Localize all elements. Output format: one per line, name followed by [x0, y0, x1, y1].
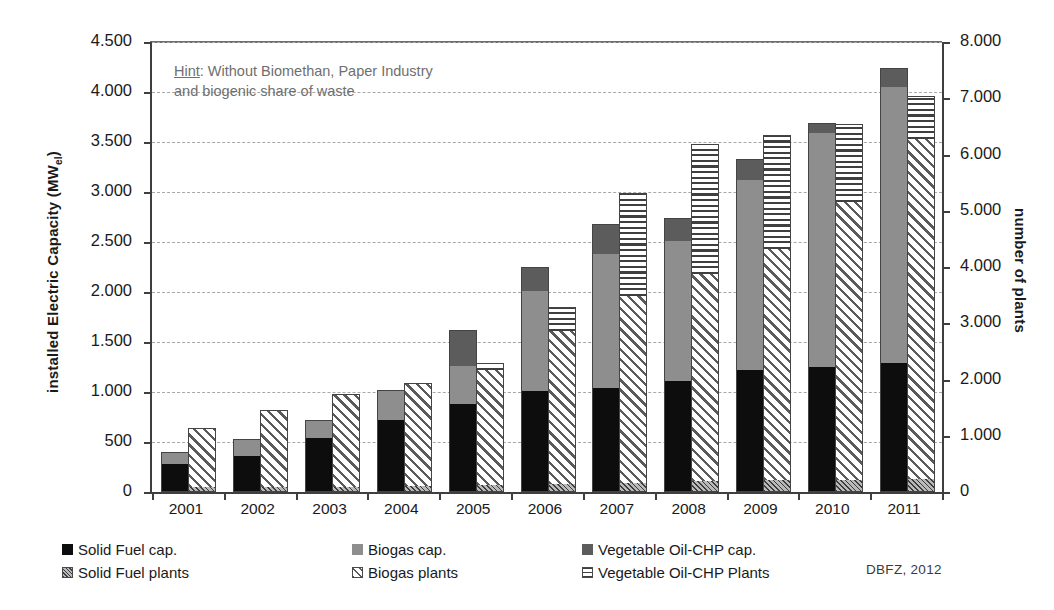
segment-vegetable-oil-chp-plants-2007[interactable] — [620, 194, 646, 296]
segment-vegetable-oil-chp-cap-2010[interactable] — [809, 124, 835, 133]
segment-vegetable-oil-chp-plants-2011[interactable] — [908, 97, 934, 139]
segment-biogas-plants-2004[interactable] — [405, 384, 431, 486]
segment-biogas-cap-2003[interactable] — [306, 421, 332, 439]
segment-vegetable-oil-chp-cap-2011[interactable] — [881, 69, 907, 87]
segment-biogas-plants-2005[interactable] — [477, 370, 503, 485]
segment-biogas-cap-2008[interactable] — [665, 241, 691, 381]
bar-plants-2007[interactable] — [619, 193, 647, 492]
segment-solid-fuel-cap-2005[interactable] — [450, 404, 476, 491]
left-axis-title-tail: ) — [44, 151, 61, 156]
segment-biogas-cap-2006[interactable] — [522, 291, 548, 391]
segment-solid-fuel-cap-2007[interactable] — [593, 388, 619, 491]
bar-capacity-2005[interactable] — [449, 330, 477, 492]
legend-item-solid-fuel-cap[interactable]: Solid Fuel cap. — [62, 538, 352, 561]
segment-solid-fuel-cap-2002[interactable] — [234, 456, 260, 491]
bar-capacity-2010[interactable] — [808, 123, 836, 492]
segment-solid-fuel-cap-2003[interactable] — [306, 438, 332, 491]
segment-solid-fuel-plants-2009[interactable] — [764, 480, 790, 491]
segment-vegetable-oil-chp-cap-2009[interactable] — [737, 160, 763, 180]
bar-plants-2008[interactable] — [691, 144, 719, 493]
segment-biogas-plants-2001[interactable] — [189, 429, 215, 487]
bar-capacity-2007[interactable] — [592, 224, 620, 492]
segment-biogas-plants-2003[interactable] — [333, 395, 359, 486]
segment-biogas-cap-2005[interactable] — [450, 366, 476, 404]
bar-capacity-2004[interactable] — [377, 390, 405, 492]
segment-solid-fuel-cap-2006[interactable] — [522, 391, 548, 491]
segment-biogas-plants-2007[interactable] — [620, 296, 646, 482]
segment-biogas-plants-2010[interactable] — [836, 202, 862, 479]
bar-group-2004 — [377, 42, 430, 492]
segment-vegetable-oil-chp-cap-2005[interactable] — [450, 331, 476, 366]
left-axis-tick-label: 3.500 — [12, 131, 132, 150]
segment-vegetable-oil-chp-cap-2008[interactable] — [665, 219, 691, 241]
chart-canvas: installed Electric Capacity (MWel) numbe… — [0, 0, 1054, 610]
left-axis-tick-label: 1.000 — [12, 381, 132, 400]
segment-solid-fuel-cap-2010[interactable] — [809, 367, 835, 491]
x-axis-tick — [655, 492, 657, 500]
segment-biogas-cap-2011[interactable] — [881, 87, 907, 363]
segment-biogas-plants-2006[interactable] — [549, 331, 575, 485]
legend-item-biogas-plants[interactable]: Biogas plants — [352, 561, 582, 584]
segment-biogas-cap-2001[interactable] — [162, 453, 188, 464]
left-axis-tick — [144, 342, 152, 344]
segment-biogas-cap-2004[interactable] — [378, 391, 404, 420]
x-axis-tick — [296, 492, 298, 500]
segment-biogas-cap-2010[interactable] — [809, 133, 835, 367]
segment-vegetable-oil-chp-cap-2007[interactable] — [593, 225, 619, 254]
segment-solid-fuel-plants-2004[interactable] — [405, 486, 431, 491]
bar-plants-2009[interactable] — [763, 135, 791, 493]
bar-plants-2011[interactable] — [907, 96, 935, 492]
bar-plants-2005[interactable] — [476, 363, 504, 492]
segment-solid-fuel-plants-2006[interactable] — [549, 484, 575, 491]
segment-solid-fuel-plants-2010[interactable] — [836, 480, 862, 491]
segment-vegetable-oil-chp-plants-2009[interactable] — [764, 136, 790, 249]
bar-capacity-2008[interactable] — [664, 218, 692, 492]
bar-plants-2001[interactable] — [188, 428, 216, 492]
left-axis-tick — [144, 392, 152, 394]
segment-vegetable-oil-chp-plants-2006[interactable] — [549, 308, 575, 331]
segment-solid-fuel-plants-2003[interactable] — [333, 487, 359, 492]
x-axis-tick — [583, 492, 585, 500]
bar-capacity-2002[interactable] — [233, 439, 261, 492]
segment-solid-fuel-plants-2005[interactable] — [477, 485, 503, 491]
left-axis-tick — [144, 292, 152, 294]
right-axis-tick — [942, 380, 950, 382]
segment-biogas-cap-2009[interactable] — [737, 180, 763, 370]
segment-solid-fuel-cap-2011[interactable] — [881, 363, 907, 491]
left-axis-tick-label: 2.000 — [12, 281, 132, 300]
left-axis-tick — [144, 442, 152, 444]
segment-solid-fuel-cap-2004[interactable] — [378, 420, 404, 491]
bar-plants-2002[interactable] — [260, 410, 288, 492]
segment-biogas-cap-2002[interactable] — [234, 440, 260, 456]
legend-item-vegetable-oil-chp-cap[interactable]: Vegetable Oil-CHP cap. — [582, 538, 852, 561]
bar-plants-2003[interactable] — [332, 394, 360, 492]
segment-biogas-plants-2002[interactable] — [261, 411, 287, 487]
segment-solid-fuel-cap-2009[interactable] — [737, 370, 763, 491]
legend-item-biogas-cap[interactable]: Biogas cap. — [352, 538, 582, 561]
segment-vegetable-oil-chp-cap-2006[interactable] — [522, 268, 548, 291]
bar-plants-2004[interactable] — [404, 383, 432, 492]
segment-biogas-plants-2011[interactable] — [908, 139, 934, 479]
bar-plants-2010[interactable] — [835, 124, 863, 492]
segment-solid-fuel-cap-2008[interactable] — [665, 381, 691, 491]
bar-plants-2006[interactable] — [548, 307, 576, 492]
segment-solid-fuel-cap-2001[interactable] — [162, 464, 188, 491]
bar-capacity-2011[interactable] — [880, 68, 908, 492]
segment-solid-fuel-plants-2011[interactable] — [908, 479, 934, 491]
bar-capacity-2009[interactable] — [736, 159, 764, 492]
segment-biogas-cap-2007[interactable] — [593, 254, 619, 388]
segment-solid-fuel-plants-2008[interactable] — [692, 481, 718, 491]
segment-solid-fuel-plants-2007[interactable] — [620, 483, 646, 491]
segment-vegetable-oil-chp-plants-2010[interactable] — [836, 125, 862, 203]
bar-capacity-2001[interactable] — [161, 452, 189, 492]
segment-biogas-plants-2008[interactable] — [692, 274, 718, 481]
legend-item-vegetable-oil-chp-plants[interactable]: Vegetable Oil-CHP Plants — [582, 561, 852, 584]
segment-vegetable-oil-chp-plants-2008[interactable] — [692, 145, 718, 275]
legend-item-solid-fuel-plants[interactable]: Solid Fuel plants — [62, 561, 352, 584]
segment-vegetable-oil-chp-plants-2005[interactable] — [477, 364, 503, 370]
segment-solid-fuel-plants-2002[interactable] — [261, 487, 287, 491]
segment-solid-fuel-plants-2001[interactable] — [189, 487, 215, 491]
bar-capacity-2006[interactable] — [521, 267, 549, 492]
segment-biogas-plants-2009[interactable] — [764, 249, 790, 481]
bar-capacity-2003[interactable] — [305, 420, 333, 493]
